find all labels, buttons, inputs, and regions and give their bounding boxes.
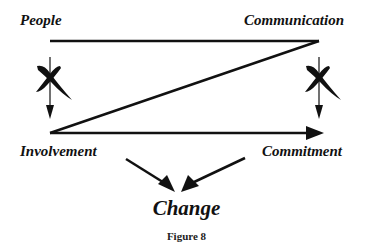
involvement-change-arrow xyxy=(126,159,166,184)
node-change: Change xyxy=(0,196,373,221)
arrowhead-down-icon xyxy=(46,105,54,119)
cross-mark-icon xyxy=(36,66,72,100)
node-communication: Communication xyxy=(244,12,344,29)
arrowhead-right-icon xyxy=(306,126,324,140)
figure-caption: Figure 8 xyxy=(0,230,373,242)
arrowhead-icon xyxy=(158,175,175,192)
node-people: People xyxy=(20,12,62,29)
cross-mark-icon xyxy=(305,66,341,100)
arrowhead-icon xyxy=(181,175,199,192)
node-involvement: Involvement xyxy=(20,143,97,160)
node-commitment: Commitment xyxy=(262,143,342,160)
communication-involvement-line xyxy=(50,41,319,133)
commitment-change-arrow xyxy=(192,158,245,183)
arrowhead-down-icon xyxy=(315,105,323,119)
